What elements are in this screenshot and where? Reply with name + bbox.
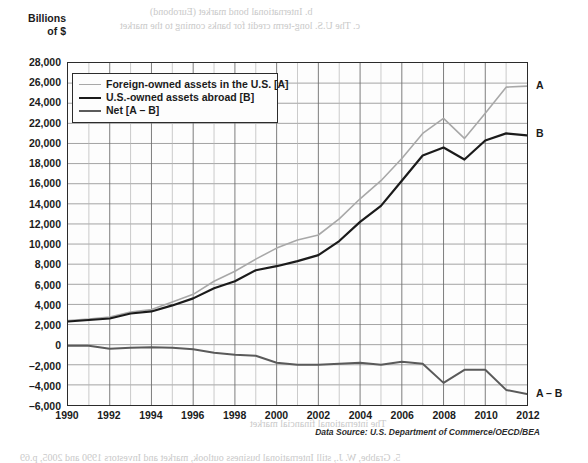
y-axis-tick-label: 26,000 [9, 77, 61, 88]
legend-item-label: U.S.-owned assets abroad [B] [106, 92, 254, 103]
chart-legend: Foreign-owned assets in the U.S. [A]U.S.… [72, 73, 278, 123]
x-axis-tick-label: 2002 [307, 410, 330, 421]
legend-item-label: Foreign-owned assets in the U.S. [A] [106, 79, 289, 90]
y-axis-tick-label: 10,000 [9, 239, 61, 250]
y-axis-tick-label: 14,000 [9, 198, 61, 209]
x-axis-tick-label: 2012 [516, 410, 539, 421]
y-axis-tick-label: 18,000 [9, 158, 61, 169]
series-end-label: A [536, 80, 544, 91]
y-axis-tick-label: –2,000 [9, 360, 61, 371]
series-end-label: A – B [536, 388, 562, 399]
y-axis-tick-label: 4,000 [9, 300, 61, 311]
y-axis-tick-label: 12,000 [9, 219, 61, 230]
legend-swatch-icon [79, 84, 101, 85]
y-axis-tick-label: 22,000 [9, 117, 61, 128]
y-axis-tick-label: 0 [9, 340, 61, 351]
bleed-text: 5. Grabbe, W. J., still International bu… [20, 452, 401, 463]
y-axis-tick-label: 24,000 [9, 97, 61, 108]
y-axis-tick-label: –6,000 [9, 401, 61, 412]
y-axis-tick-label: 28,000 [9, 57, 61, 68]
x-axis-tick-label: 2008 [432, 410, 455, 421]
international-investment-position-chart: b. International bond market (Eurobond)c… [0, 0, 588, 463]
x-axis-tick-label: 1990 [55, 410, 78, 421]
x-axis-tick-label: 1992 [97, 410, 120, 421]
x-axis-tick-label: 2000 [265, 410, 288, 421]
y-axis-tick-label: 6,000 [9, 279, 61, 290]
y-axis-title-line2: of $ [18, 25, 66, 38]
series-end-label: B [536, 128, 544, 139]
y-axis-tick-label: 2,000 [9, 320, 61, 331]
legend-item: U.S.-owned assets abroad [B] [79, 91, 271, 104]
legend-swatch-icon [79, 110, 101, 112]
y-axis-title-line1: Billions [18, 12, 66, 25]
x-axis-tick-label: 1994 [139, 410, 162, 421]
legend-swatch-icon [79, 97, 101, 99]
y-axis-tick-label: 8,000 [9, 259, 61, 270]
source-caption: Data Source: U.S. Department of Commerce… [315, 427, 540, 437]
x-axis-tick-label: 1998 [223, 410, 246, 421]
y-axis-tick-label: 16,000 [9, 178, 61, 189]
legend-item: Foreign-owned assets in the U.S. [A] [79, 78, 271, 91]
bleed-text: c. The U.S. long-term credit for banks c… [120, 20, 360, 31]
y-axis-tick-label: 20,000 [9, 138, 61, 149]
legend-item: Net [A – B] [79, 104, 271, 117]
bleed-text: b. International bond market (Eurobond) [150, 6, 312, 17]
x-axis-tick-label: 1996 [181, 410, 204, 421]
x-axis-tick-label: 2006 [391, 410, 414, 421]
x-axis-tick-label: 2004 [349, 410, 372, 421]
legend-item-label: Net [A – B] [106, 105, 159, 116]
y-axis-title: Billions of $ [18, 12, 66, 37]
x-axis-tick-label: 2010 [474, 410, 497, 421]
y-axis-tick-label: –4,000 [9, 381, 61, 392]
